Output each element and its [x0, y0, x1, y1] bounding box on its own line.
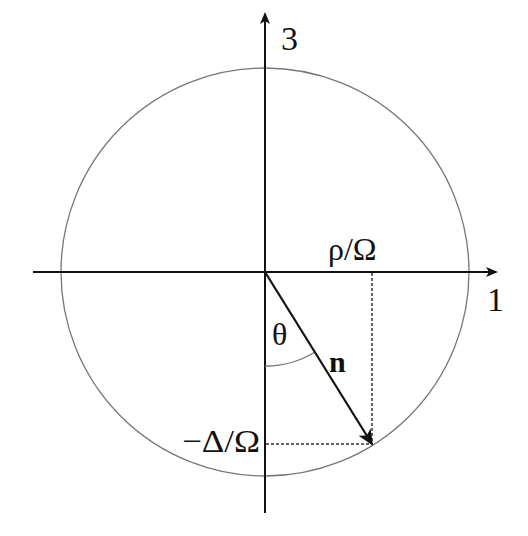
- angle-arc: [265, 352, 315, 366]
- axis-1-label: 1: [487, 281, 504, 318]
- delta-omega-label: −Δ/Ω: [182, 423, 260, 459]
- axis-3-label: 3: [281, 20, 298, 57]
- rho-omega-label: ρ/Ω: [328, 231, 377, 267]
- theta-label: θ: [272, 316, 287, 352]
- vector-n-label: n: [329, 345, 346, 378]
- bloch-diagram: 3 1 ρ/Ω −Δ/Ω θ n: [0, 0, 528, 536]
- vector-n: [265, 272, 372, 444]
